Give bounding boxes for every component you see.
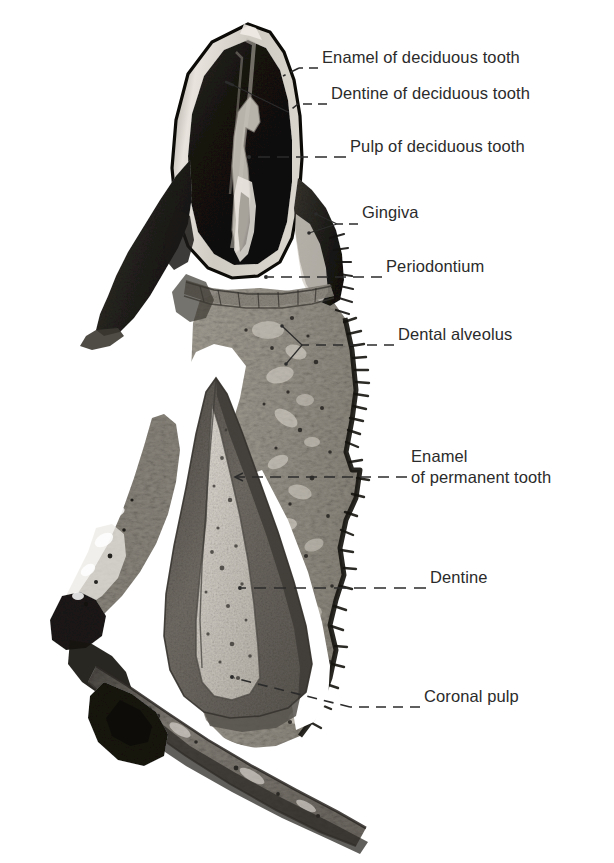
label-dental-alveolus: Dental alveolus bbox=[398, 324, 512, 345]
label-dentine-of-deciduous-tooth: Dentine of deciduous tooth bbox=[331, 83, 530, 104]
label-text: Enamel bbox=[411, 447, 468, 465]
label-text-line2: of permanent tooth bbox=[411, 467, 551, 488]
specimen-photomicrograph bbox=[0, 0, 614, 863]
label-text: Dentine bbox=[430, 568, 488, 586]
label-enamel-of-permanent-tooth: Enamel of permanent tooth bbox=[411, 446, 551, 488]
label-coronal-pulp: Coronal pulp bbox=[424, 686, 519, 707]
label-text: Dentine of deciduous tooth bbox=[331, 84, 530, 102]
label-periodontium: Periodontium bbox=[386, 256, 484, 277]
label-text: Dental alveolus bbox=[398, 325, 512, 343]
label-text: Coronal pulp bbox=[424, 687, 519, 705]
label-text: Enamel of deciduous tooth bbox=[322, 48, 520, 66]
label-enamel-of-deciduous-tooth: Enamel of deciduous tooth bbox=[322, 47, 520, 68]
label-pulp-of-deciduous-tooth: Pulp of deciduous tooth bbox=[350, 136, 525, 157]
label-text: Periodontium bbox=[386, 257, 484, 275]
label-dentine: Dentine bbox=[430, 567, 488, 588]
figure-container: Enamel of deciduous tooth Dentine of dec… bbox=[0, 0, 614, 863]
label-gingiva: Gingiva bbox=[362, 202, 419, 223]
label-text: Pulp of deciduous tooth bbox=[350, 137, 525, 155]
label-text: Gingiva bbox=[362, 203, 419, 221]
